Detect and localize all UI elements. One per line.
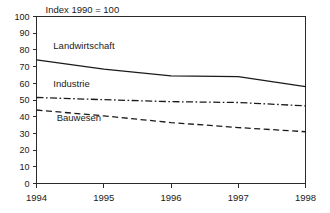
series-label-landwirtschaft: Landwirtschaft <box>53 40 115 51</box>
index-note-label: Index 1990 = 100 <box>46 4 120 15</box>
y-tick-label: 80 <box>19 45 29 55</box>
x-tick-label: 1996 <box>160 192 181 203</box>
y-tick-label: 60 <box>19 79 29 89</box>
line-chart: 0102030405060708090100 19941995199619971… <box>0 0 330 213</box>
y-tick-label: 10 <box>19 162 29 172</box>
y-tick-label: 0 <box>24 179 29 189</box>
y-tick-label: 40 <box>19 112 29 122</box>
x-tick-label: 1997 <box>228 192 249 203</box>
x-tick-label: 1998 <box>295 192 316 203</box>
y-tick-label: 70 <box>19 62 29 72</box>
y-tick-label: 20 <box>19 145 29 155</box>
series-label-bauwesen: Bauwesen <box>57 112 101 123</box>
chart-container: 0102030405060708090100 19941995199619971… <box>0 0 330 213</box>
x-tick-label: 1994 <box>26 192 47 203</box>
y-tick-label: 30 <box>19 129 29 139</box>
y-tick-label: 100 <box>14 12 29 22</box>
y-tick-label: 50 <box>19 95 29 105</box>
chart-background <box>0 0 330 213</box>
y-tick-label: 90 <box>19 28 29 38</box>
series-label-industrie: Industrie <box>53 78 89 89</box>
x-tick-label: 1995 <box>93 192 114 203</box>
